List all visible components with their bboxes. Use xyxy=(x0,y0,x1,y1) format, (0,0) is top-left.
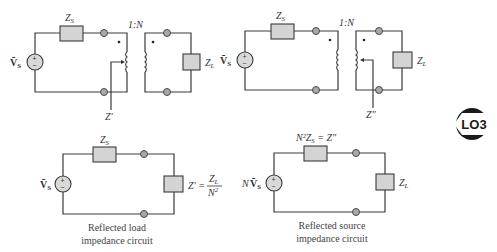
load-impedance-zl xyxy=(376,174,394,190)
terminal-dot xyxy=(313,28,320,35)
zl-label: ZL xyxy=(417,55,427,68)
zs-label: ZS xyxy=(276,10,286,23)
terminal-dot xyxy=(313,87,320,94)
source-impedance-zs xyxy=(271,24,294,39)
terminal-dot xyxy=(101,30,108,37)
source-label: ṼS xyxy=(40,179,51,192)
terminal-dot xyxy=(101,89,108,96)
secondary-coil-icon xyxy=(145,52,146,72)
terminal-dot xyxy=(141,211,148,218)
svg-text:+: + xyxy=(61,177,65,184)
source-label: ṼS xyxy=(220,55,231,68)
load-impedance-zl xyxy=(393,52,412,68)
z-prime-label: Z′ xyxy=(105,111,114,122)
terminal-dot xyxy=(376,28,383,35)
caption-line1: Reflected source xyxy=(299,220,366,231)
terminal-dot xyxy=(353,150,360,157)
turns-ratio-label: 1:N xyxy=(128,19,144,30)
diagram-ideal-transformer-circuit: + ~ ṼS ZS 1:N ZL Z′ xyxy=(10,12,215,122)
arrow-head-icon xyxy=(360,58,364,62)
polarity-dot-icon xyxy=(152,41,155,44)
zs-label: ZS xyxy=(100,134,110,147)
polarity-dot-icon xyxy=(329,39,332,42)
fraction-denominator: N2 xyxy=(207,186,219,198)
z-double-prime-label: Z″ xyxy=(366,109,377,120)
diagram-reflected-load: + ~ ṼS ZS Z′ = ZL N2 Reflected load impe… xyxy=(40,134,222,246)
caption-line1: Reflected load xyxy=(88,222,146,233)
arrow-head-icon xyxy=(121,60,125,64)
reflected-impedance-box xyxy=(164,176,183,192)
zs-label: ZS xyxy=(65,12,75,25)
source-prefix-n: N xyxy=(241,178,250,189)
polarity-dot-icon xyxy=(363,39,366,42)
svg-text:~: ~ xyxy=(33,62,37,69)
primary-wire xyxy=(245,31,338,90)
learning-objective-badge: LO3 xyxy=(454,108,492,140)
secondary-coil-icon xyxy=(356,50,357,70)
terminal-dot xyxy=(164,30,171,37)
svg-text:~: ~ xyxy=(272,183,276,190)
polarity-dot-icon xyxy=(118,41,121,44)
svg-text:+: + xyxy=(33,55,37,62)
svg-text:~: ~ xyxy=(61,184,65,191)
loop-wire xyxy=(274,153,385,212)
svg-text:~: ~ xyxy=(243,60,247,67)
caption-line2: impedance circuit xyxy=(81,235,153,246)
source-label: ṼS xyxy=(250,178,261,191)
primary-coil-icon xyxy=(337,50,338,70)
svg-text:+: + xyxy=(272,176,276,183)
series-impedance-equation: N²ZS = Z″ xyxy=(295,132,337,145)
impedance-arrow-line xyxy=(364,60,373,108)
primary-coil-icon xyxy=(126,52,127,72)
terminal-dot xyxy=(353,209,360,216)
load-impedance-zl xyxy=(183,54,200,70)
zl-label: ZL xyxy=(205,57,215,70)
fraction-numerator: ZL xyxy=(209,173,219,186)
impedance-arrow-line xyxy=(111,62,121,110)
z-prime-equation: Z′ = xyxy=(188,180,205,191)
reflected-source-impedance-box xyxy=(304,146,327,161)
turns-ratio-label: 1:N xyxy=(339,17,355,28)
caption-line2: impedance circuit xyxy=(296,233,368,244)
svg-text:+: + xyxy=(243,53,247,60)
source-label: ṼS xyxy=(10,57,21,70)
diagram-transformer-source-side: + ~ ṼS ZS 1:N ZL Z″ xyxy=(220,10,427,120)
badge-text: LO3 xyxy=(461,117,486,132)
terminal-dot xyxy=(376,87,383,94)
zl-label: ZL xyxy=(399,177,409,190)
diagram-reflected-source: + ~ N ṼS N²ZS = Z″ ZL Reflected source i… xyxy=(241,132,409,244)
terminal-dot xyxy=(164,89,171,96)
source-impedance-zs xyxy=(93,147,116,162)
loop-wire xyxy=(63,154,174,214)
source-impedance-zs xyxy=(60,26,83,41)
terminal-dot xyxy=(141,151,148,158)
